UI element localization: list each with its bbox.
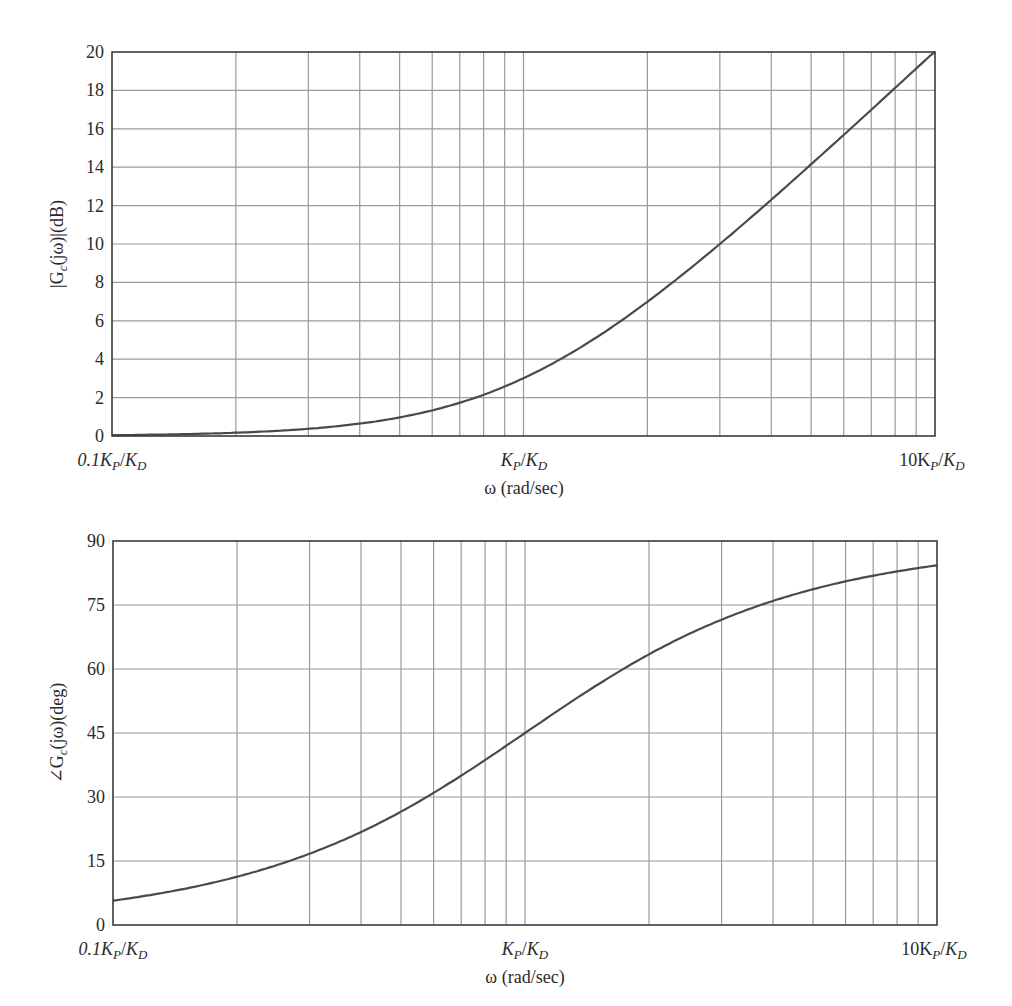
bode-plot-figure: 02468101214161820 |Gc(jω)|(dB) 0.1KP/KD … bbox=[0, 0, 1012, 1006]
phase-y-tick-labels: 0153045607590 bbox=[87, 531, 105, 935]
y-tick-label: 6 bbox=[95, 311, 104, 331]
y-tick-label: 4 bbox=[95, 349, 104, 369]
magnitude-x-tick-left: 0.1KP/KD bbox=[78, 450, 148, 473]
phase-ylabel: ∠Gc(jω)(deg) bbox=[47, 683, 70, 784]
phase-x-tick-right: 10KP/KD bbox=[901, 939, 967, 962]
y-tick-label: 45 bbox=[87, 723, 105, 743]
y-tick-label: 2 bbox=[95, 388, 104, 408]
y-tick-label: 20 bbox=[86, 42, 104, 62]
magnitude-x-tick-mid: KP/KD bbox=[500, 450, 548, 473]
y-tick-label: 15 bbox=[87, 851, 105, 871]
y-tick-label: 14 bbox=[86, 157, 104, 177]
y-tick-label: 16 bbox=[86, 119, 104, 139]
y-tick-label: 75 bbox=[87, 595, 105, 615]
magnitude-xlabel: ω (rad/sec) bbox=[484, 478, 563, 499]
y-tick-label: 12 bbox=[86, 196, 104, 216]
phase-x-tick-left: 0.1KP/KD bbox=[79, 939, 149, 962]
y-tick-label: 0 bbox=[95, 426, 104, 446]
y-tick-label: 8 bbox=[95, 272, 104, 292]
phase-x-tick-mid: KP/KD bbox=[501, 939, 549, 962]
magnitude-ylabel: |Gc(jω)|(dB) bbox=[47, 200, 70, 288]
y-tick-label: 90 bbox=[87, 531, 105, 551]
y-tick-label: 30 bbox=[87, 787, 105, 807]
magnitude-y-tick-labels: 02468101214161820 bbox=[86, 42, 104, 446]
phase-plot: 0153045607590 ∠Gc(jω)(deg) 0.1KP/KD KP/K… bbox=[47, 531, 967, 988]
phase-xlabel: ω (rad/sec) bbox=[485, 967, 564, 988]
magnitude-x-tick-right: 10KP/KD bbox=[899, 450, 965, 473]
y-tick-label: 60 bbox=[87, 659, 105, 679]
y-tick-label: 10 bbox=[86, 234, 104, 254]
y-tick-label: 18 bbox=[86, 80, 104, 100]
magnitude-plot: 02468101214161820 |Gc(jω)|(dB) 0.1KP/KD … bbox=[47, 42, 965, 499]
y-tick-label: 0 bbox=[96, 915, 105, 935]
